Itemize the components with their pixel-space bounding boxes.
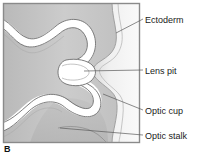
label-lens-pit: Lens pit <box>145 66 177 76</box>
lens-pit-cavity <box>58 59 95 85</box>
panel-letter-b: B <box>4 144 11 154</box>
label-ectoderm: Ectoderm <box>145 15 184 25</box>
label-optic-stalk: Optic stalk <box>145 131 187 141</box>
label-optic-cup: Optic cup <box>145 106 183 116</box>
panel-interior <box>0 3 140 143</box>
figure-container: Ectoderm Lens pit Optic cup Optic stalk … <box>0 0 203 158</box>
